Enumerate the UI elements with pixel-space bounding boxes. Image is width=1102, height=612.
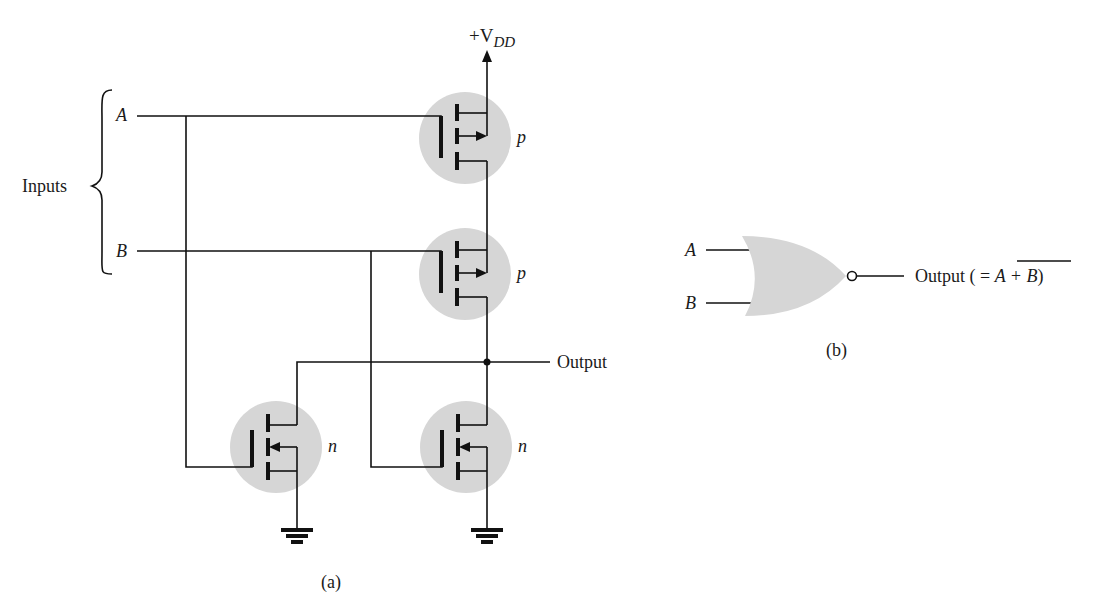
p-top-transistor-bg xyxy=(419,92,511,184)
p-bottom-transistor-bg xyxy=(419,228,511,320)
nor-bubble-icon xyxy=(848,272,857,281)
output-label: Output xyxy=(557,352,607,372)
inputs-brace xyxy=(92,90,112,274)
input-a-wire xyxy=(137,116,441,158)
output-node-dot xyxy=(484,359,491,366)
n-right-type-label: n xyxy=(518,436,527,456)
input-b-label: B xyxy=(116,241,127,261)
vdd-label: +VDD xyxy=(469,25,515,50)
figure-b-nor-gate: A B Output ( = A + B) (b) xyxy=(684,236,1071,361)
nor-input-a-label: A xyxy=(684,240,697,260)
inputs-label: Inputs xyxy=(22,176,67,196)
figure-b-caption: (b) xyxy=(826,340,847,361)
input-a-to-n-left-wire xyxy=(186,116,252,467)
output-wire xyxy=(297,362,550,425)
vdd-arrow-icon xyxy=(482,50,492,62)
cmos-nor-diagram: +VDD Inputs A B p xyxy=(0,0,1102,612)
nor-output-label: Output ( = A + B) xyxy=(915,266,1043,287)
input-a-label: A xyxy=(115,105,128,125)
n-left-type-label: n xyxy=(328,436,337,456)
p-top-type-label: p xyxy=(515,127,526,147)
p-bottom-type-label: p xyxy=(515,263,526,283)
ground-left-icon xyxy=(281,530,313,542)
ground-right-icon xyxy=(471,530,503,542)
input-b-wire xyxy=(137,251,441,293)
figure-a-cmos-circuit: +VDD Inputs A B p xyxy=(22,25,607,593)
nor-input-b-label: B xyxy=(685,293,696,313)
nor-gate-icon xyxy=(742,236,846,316)
figure-a-caption: (a) xyxy=(321,572,341,593)
